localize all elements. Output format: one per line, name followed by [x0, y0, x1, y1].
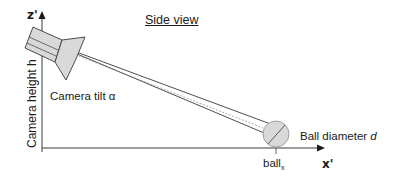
ball-diameter-label: Ball diameter d [300, 131, 377, 143]
ball-diameter-symbol: d [370, 130, 376, 142]
ball-x-base: ball [263, 157, 281, 169]
ball [263, 121, 289, 147]
ray-lower [44, 40, 276, 138]
z-axis-label: z' [27, 9, 38, 21]
side-view-diagram: Side view z' x' Camera tilt α Camera hei… [0, 0, 398, 187]
diagram-title: Side view [145, 14, 199, 27]
ball-diameter-text: Ball diameter [300, 130, 370, 142]
z-axis-arrow-icon [39, 11, 46, 19]
x-axis-arrow-icon [317, 145, 325, 152]
camera-tilt-label: Camera tilt α [50, 91, 115, 103]
ball-x-subscript: x [281, 164, 285, 171]
camera-height-label: Camera height h [26, 59, 38, 148]
x-axis-label: x' [322, 158, 333, 170]
ball-x-label: ballx [263, 158, 284, 171]
